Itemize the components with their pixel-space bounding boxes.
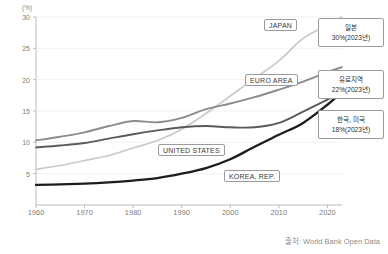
series-line-korea-rep xyxy=(36,92,342,185)
annotation-value: 22%(2023년) xyxy=(320,85,382,95)
source-note: 출처: World Bank Open Data xyxy=(285,235,380,246)
annotation-box-3: 한국, 미국18%(2023년) xyxy=(318,110,384,139)
annotation-region: 유로지역 xyxy=(320,75,382,85)
series-callout-united-states: UNITED STATES xyxy=(158,144,225,156)
x-tick-label: 2010 xyxy=(262,208,296,217)
y-tick-label: 10 xyxy=(10,139,30,146)
series-callout-euro-area: EURO AREA xyxy=(245,74,298,86)
plot-area xyxy=(36,17,342,205)
y-axis-unit-label: (%) xyxy=(22,4,32,11)
annotation-box-1: 일본30%(2023년) xyxy=(318,18,384,47)
y-tick-label: 25 xyxy=(10,45,30,52)
chart-page: (%) 51015202530 196019701980199020002010… xyxy=(0,0,388,254)
x-tick-label: 1990 xyxy=(165,208,199,217)
annotation-box-2: 유로지역22%(2023년) xyxy=(318,70,384,99)
x-tick-label: 1980 xyxy=(116,208,150,217)
annotation-value: 18%(2023년) xyxy=(320,125,382,135)
series-callout-korea-rep: KOREA, REP. xyxy=(224,170,280,182)
series-line-united-states xyxy=(36,92,342,147)
y-tick-label: 30 xyxy=(10,14,30,21)
y-tick-label: 20 xyxy=(10,76,30,83)
annotation-region: 일본 xyxy=(320,23,382,33)
annotation-value: 30%(2023년) xyxy=(320,33,382,43)
y-tick-label: 5 xyxy=(10,170,30,177)
x-tick-label: 1970 xyxy=(68,208,102,217)
x-tick-label: 1960 xyxy=(19,208,53,217)
chart-svg xyxy=(36,17,342,205)
annotation-region: 한국, 미국 xyxy=(320,115,382,125)
x-tick-label: 2000 xyxy=(213,208,247,217)
series-callout-japan: JAPAN xyxy=(264,19,297,31)
x-tick-label: 2020 xyxy=(310,208,344,217)
y-tick-label: 15 xyxy=(10,108,30,115)
